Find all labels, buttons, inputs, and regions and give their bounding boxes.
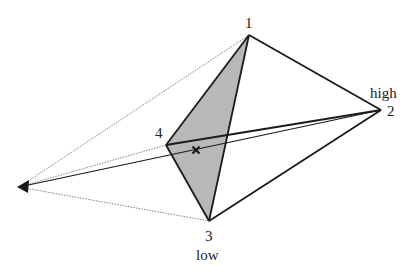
vertex-label-4: 4 — [155, 125, 163, 141]
projection-line-apex-4 — [19, 145, 166, 187]
edge-2-3 — [209, 110, 381, 221]
arrowhead-icon — [17, 180, 29, 193]
vertex-label-2: 2 — [387, 103, 395, 119]
vertex-label-1: 1 — [245, 15, 253, 31]
edge-1-2 — [249, 35, 381, 110]
vertex-label-3: 3 — [205, 228, 213, 244]
projection-line-apex-3 — [19, 187, 209, 221]
simplex-diagram: 1 2 high 3 low 4 — [0, 0, 416, 274]
vertex-annotation-low: low — [196, 247, 219, 263]
vertex-annotation-high: high — [370, 85, 397, 101]
